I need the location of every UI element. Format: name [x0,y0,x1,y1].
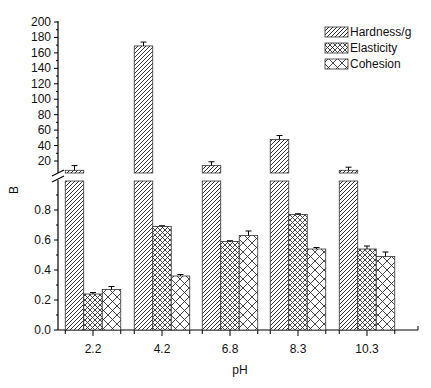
y-tick-label: 20 [38,154,52,168]
bar-cohesion [171,276,190,330]
legend: Hardness/gElasticityCohesion [325,25,411,71]
bar-elasticity [289,215,308,331]
x-tick-label: 2.2 [85,342,102,356]
bar-hardness-lower [270,181,289,330]
x-tick-label: 4.2 [154,342,171,356]
bars [65,42,395,330]
bar-elasticity [221,242,240,331]
bar-cohesion [239,236,258,331]
bar-cohesion [376,257,395,331]
bar-cohesion [307,249,326,330]
bar-elasticity [358,249,377,330]
legend-label: Hardness/g [350,25,411,39]
bar-hardness-lower [134,181,153,330]
bar-chart: 0.00.20.40.60.82040608010012014016018020… [0,0,431,388]
legend-swatch [325,27,348,37]
x-axis-title: pH [232,363,247,377]
bar-hardness-lower [65,181,84,330]
bar-elasticity [153,227,172,331]
bar-cohesion [102,290,121,331]
x-tick-label: 10.3 [355,342,379,356]
y-tick-label: 0.4 [34,263,51,277]
x-tick-label: 8.3 [290,342,307,356]
bar-hardness-upper [339,170,358,173]
legend-label: Cohesion [350,57,401,71]
x-tick-label: 6.8 [222,342,239,356]
bar-hardness-lower [339,181,358,330]
y-tick-label: 40 [38,139,52,153]
y-tick-label: 200 [31,15,51,29]
y-tick-label: 80 [38,108,52,122]
legend-swatch [325,59,348,69]
bar-hardness-upper [134,46,153,173]
bar-hardness-upper [202,166,221,173]
y-tick-label: 60 [38,123,52,137]
y-tick-label: 0.8 [34,203,51,217]
y-tick-label: 0.0 [34,323,51,337]
y-axis-title: B [7,186,21,194]
y-tick-label: 100 [31,92,51,106]
bar-hardness-lower [202,181,221,330]
y-tick-label: 0.2 [34,293,51,307]
legend-label: Elasticity [350,41,397,55]
y-tick-label: 0.6 [34,233,51,247]
bar-hardness-upper [65,170,84,173]
bar-hardness-upper [270,139,289,173]
bar-elasticity [84,294,103,330]
y-tick-label: 160 [31,46,51,60]
y-tick-label: 120 [31,77,51,91]
legend-swatch [325,43,348,53]
y-tick-label: 140 [31,61,51,75]
y-tick-label: 180 [31,30,51,44]
